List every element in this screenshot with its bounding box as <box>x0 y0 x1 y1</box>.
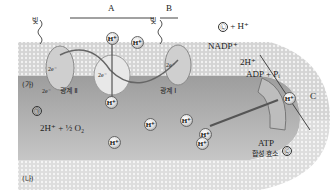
bracket-c-label: C <box>310 92 316 101</box>
h-ion: H⁺ <box>144 118 157 131</box>
region-label-na: (나) <box>22 176 33 183</box>
h-ion: H⁺ <box>105 96 118 109</box>
thylakoid-diagram: A B C 빛 빛 (가) (나) 광계 Ⅱ 광계 Ⅰ 2e⁻ 2e⁻ 2e⁻ … <box>0 0 335 196</box>
electron-label-2: 2e⁻ <box>42 88 51 94</box>
light-label-2: 빛 <box>150 18 156 25</box>
nadp-reactant: NADP⁺ <box>208 42 238 51</box>
atp-synthase-label-1: ATP <box>258 139 274 148</box>
light-label-1: 빛 <box>32 18 38 25</box>
photosystem-2-label: 광계 Ⅱ <box>60 88 78 95</box>
atp-product-marker: ㉢ <box>282 146 292 156</box>
water-split-marker: ㉠ <box>32 106 42 116</box>
h-ion: H⁺ <box>283 92 296 105</box>
h-ion: H⁺ <box>106 32 119 45</box>
atp-substrates: ADP + Pᵢ <box>246 70 280 79</box>
light-wave-2 <box>158 20 162 44</box>
nadp-product: ㉡ + H⁺ <box>218 22 249 32</box>
region-label-ga: (가) <box>22 82 33 89</box>
electron-label-3: 2e⁻ <box>98 72 107 78</box>
water-split-products: 2H⁺ + ½ O₂ <box>40 124 84 133</box>
photosystem-1-label: 광계 Ⅰ <box>160 88 176 95</box>
atp-synthase-label-2: 합성 효소 <box>252 151 278 158</box>
bracket-b-label: B <box>166 4 172 13</box>
light-wave-1 <box>38 20 42 44</box>
electron-label-4: 2e⁻ <box>166 62 175 68</box>
bracket-a-label: A <box>108 4 115 13</box>
h-ion: H⁺ <box>180 114 193 127</box>
h-ion: H⁺ <box>131 36 144 49</box>
electron-label-1: 2e⁻ <box>48 66 57 72</box>
h-ion: H⁺ <box>196 137 209 150</box>
h-ion: H⁺ <box>108 136 121 149</box>
nadp-added-h: 2H⁺ <box>240 58 256 67</box>
